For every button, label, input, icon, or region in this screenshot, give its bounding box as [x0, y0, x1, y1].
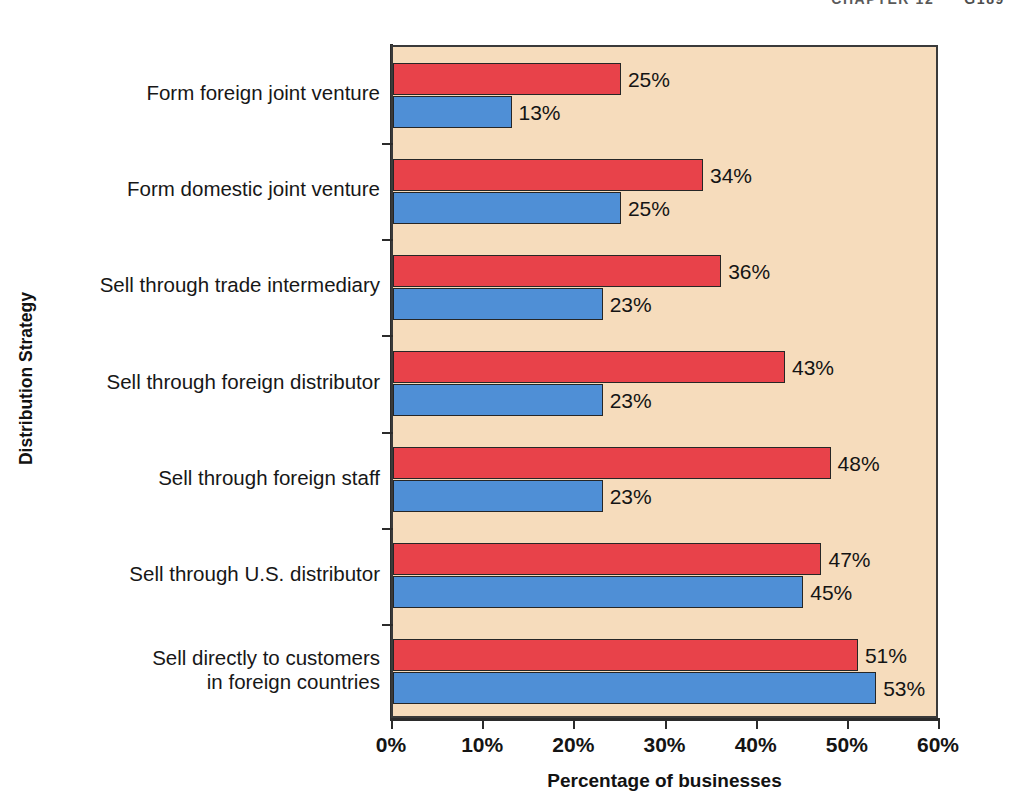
bar-micro-2 [393, 288, 603, 320]
category-axis-labels: Form foreign joint ventureForm domestic … [0, 0, 381, 718]
bar-value-label: 53% [883, 678, 925, 699]
x-tick-label: 50% [826, 733, 868, 757]
category-label-line: Form foreign joint venture [146, 81, 380, 105]
bar-micro-1 [393, 192, 621, 224]
y-tick [382, 239, 393, 241]
category-label-line: Sell through U.S. distributor [129, 562, 380, 586]
x-tick [665, 718, 667, 729]
x-axis-title: Percentage of businesses [391, 770, 938, 792]
category-label-1: Form domestic joint venture [127, 177, 380, 201]
category-label-line: Sell through foreign distributor [107, 370, 381, 394]
bar-value-label: 25% [628, 198, 670, 219]
bar-value-label: 36% [728, 261, 770, 282]
x-tick-label: 40% [735, 733, 777, 757]
x-tick [847, 718, 849, 729]
y-tick [382, 143, 393, 145]
bar-chart-figure: Form foreign joint ventureForm domestic … [0, 0, 1019, 810]
category-label-6: Sell directly to customersin foreign cou… [152, 646, 380, 694]
bar-value-label: 23% [610, 486, 652, 507]
bar-value-label: 51% [865, 645, 907, 666]
x-tick [482, 718, 484, 729]
bar-small-3 [393, 351, 785, 383]
bar-value-label: 13% [519, 102, 561, 123]
bar-value-label: 43% [792, 357, 834, 378]
bar-value-label: 34% [710, 165, 752, 186]
bar-small-6 [393, 639, 858, 671]
bar-value-label: 23% [610, 294, 652, 315]
bar-micro-3 [393, 384, 603, 416]
plot-area: 25%13%34%25%36%23%43%23%48%23%47%45%51%5… [391, 45, 938, 718]
bar-micro-5 [393, 576, 803, 608]
x-tick-label: 10% [461, 733, 503, 757]
category-label-3: Sell through foreign distributor [107, 370, 381, 394]
bar-value-label: 47% [828, 549, 870, 570]
category-label-4: Sell through foreign staff [158, 466, 380, 490]
bar-small-2 [393, 255, 721, 287]
x-tick-label: 20% [552, 733, 594, 757]
bar-small-4 [393, 447, 831, 479]
x-tick [573, 718, 575, 729]
x-tick [756, 718, 758, 729]
category-label-line: Form domestic joint venture [127, 177, 380, 201]
bar-micro-0 [393, 96, 512, 128]
x-tick-label: 60% [917, 733, 959, 757]
category-label-line: Sell through foreign staff [158, 466, 380, 490]
category-label-line: Sell directly to customers [152, 646, 380, 670]
category-label-line: Sell through trade intermediary [100, 273, 380, 297]
category-label-0: Form foreign joint venture [146, 81, 380, 105]
category-label-5: Sell through U.S. distributor [129, 562, 380, 586]
bar-value-label: 25% [628, 69, 670, 90]
bar-small-1 [393, 159, 703, 191]
x-tick-label: 30% [643, 733, 685, 757]
bar-value-label: 23% [610, 390, 652, 411]
bar-value-label: 45% [810, 582, 852, 603]
y-tick [382, 624, 393, 626]
category-label-2: Sell through trade intermediary [100, 273, 380, 297]
bar-micro-4 [393, 480, 603, 512]
x-tick [391, 718, 393, 729]
y-tick [382, 335, 393, 337]
y-tick [382, 528, 393, 530]
x-tick [938, 718, 940, 729]
bar-small-0 [393, 63, 621, 95]
x-tick-label: 0% [376, 733, 406, 757]
y-tick [382, 432, 393, 434]
bar-small-5 [393, 543, 821, 575]
bar-micro-6 [393, 672, 876, 704]
category-label-line: in foreign countries [152, 670, 380, 694]
bar-value-label: 48% [838, 453, 880, 474]
y-axis-title: Distribution Strategy [16, 269, 37, 489]
